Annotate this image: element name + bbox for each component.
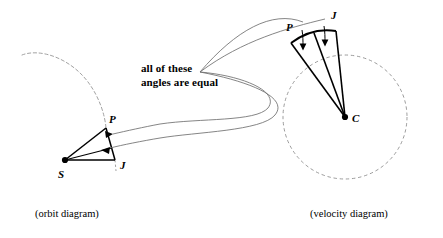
orbit-point-p-label: P [109,113,116,126]
velocity-arrow-1 [300,30,307,51]
orbit-diagram-group [22,53,116,171]
orbit-arrowhead-2 [101,147,110,154]
orbit-ellipse-arc [22,53,106,128]
caption-velocity-diagram: (velocity diagram) [310,208,388,220]
velocity-point-p-label: P [286,21,293,34]
orbit-point-s-label: S [58,168,64,181]
velocity-point-c-label: C [352,112,359,125]
velocity-point-j-label: J [331,9,337,22]
diagram-svg [0,0,443,238]
velocity-arrow-2 [322,26,329,47]
orbit-point-s-marker [62,157,68,163]
velocity-angle-arc [291,30,336,43]
caption-orbit-diagram: (orbit diagram) [35,208,99,220]
velocity-radius-cp [291,43,345,117]
orbit-ellipse-tick [115,160,116,171]
orbit-point-j-label: J [120,159,126,172]
velocity-diagram-group [283,26,407,179]
annotation-line-2: angles are equal [141,76,218,89]
figure-canvas: P J S P J C all of these angles are equa… [0,0,443,238]
velocity-point-c-marker [342,114,348,120]
annotation-line-1: all of these [141,62,192,75]
